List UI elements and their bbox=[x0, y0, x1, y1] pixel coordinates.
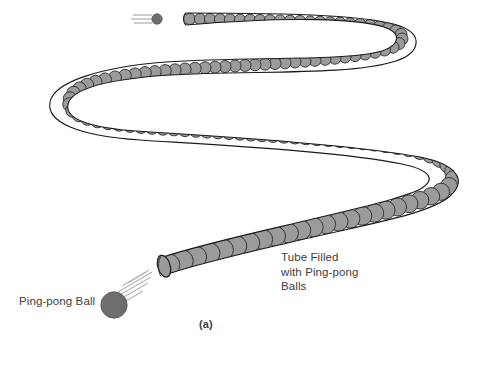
tube-body bbox=[50, 13, 462, 279]
ping-pong-ball-small-icon bbox=[152, 14, 162, 24]
tube-label-line-3: Balls bbox=[281, 280, 306, 292]
tube-label-line-2: with Ping-pong bbox=[281, 266, 358, 278]
incoming-ping-pong-ball-group bbox=[101, 270, 152, 318]
figure-panel: g[data-name^="balls-segment"] circle { f… bbox=[0, 0, 484, 392]
figure-caption: (a) bbox=[199, 317, 213, 332]
motion-lines-small-icon bbox=[131, 15, 152, 23]
ping-pong-ball-label: Ping-pong Ball bbox=[19, 294, 95, 309]
tube-label: Tube Filledwith Ping-pongBalls bbox=[281, 250, 358, 294]
exiting-ping-pong-ball-group bbox=[131, 14, 162, 24]
serpentine-tube-diagram: g[data-name^="balls-segment"] circle { f… bbox=[0, 0, 484, 392]
ping-pong-ball-icon bbox=[101, 292, 127, 318]
tube-top-end-cap-icon bbox=[184, 13, 186, 25]
tube-label-line-1: Tube Filled bbox=[281, 251, 339, 263]
